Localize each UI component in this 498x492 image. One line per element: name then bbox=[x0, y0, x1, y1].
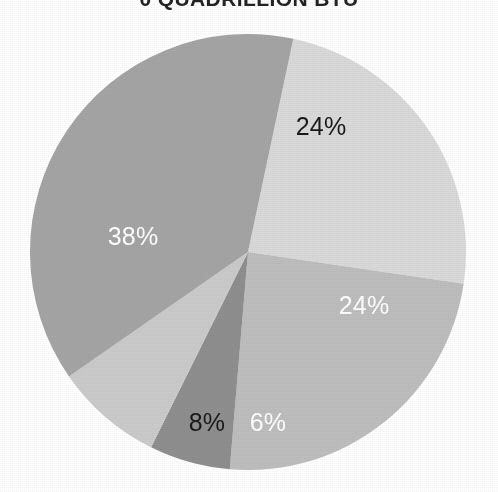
pie-slice-label: 24% bbox=[339, 291, 390, 319]
pie-slice[interactable] bbox=[230, 252, 464, 470]
pie-chart-svg: 24%24%6%8%38% bbox=[29, 33, 467, 471]
pie-slice-label: 24% bbox=[296, 112, 347, 140]
chart-title-clip: 0 QUADRILLION BTU bbox=[0, 0, 498, 13]
pie-chart: 24%24%6%8%38% bbox=[29, 33, 467, 471]
pie-slice-label: 8% bbox=[189, 408, 226, 436]
pie-chart-figure: 0 QUADRILLION BTU 24%24%6%8%38% bbox=[0, 0, 498, 492]
pie-slice-label: 6% bbox=[250, 408, 287, 436]
pie-slice-group bbox=[30, 34, 466, 470]
chart-title: 0 QUADRILLION BTU bbox=[0, 0, 498, 11]
pie-slice-label: 38% bbox=[108, 222, 159, 250]
